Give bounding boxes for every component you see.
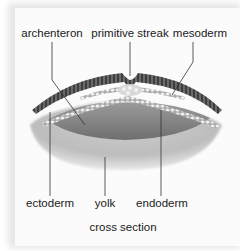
label-mesoderm: mesoderm <box>173 28 227 40</box>
label-endoderm: endoderm <box>136 198 188 210</box>
primitive-streak <box>118 84 142 96</box>
label-archenteron: archenteron <box>21 28 82 40</box>
label-primitive-streak: primitive streak <box>91 28 168 40</box>
label-ectoderm: ectoderm <box>26 198 74 210</box>
diagram-caption: cross section <box>89 222 156 234</box>
label-yolk: yolk <box>95 198 115 210</box>
